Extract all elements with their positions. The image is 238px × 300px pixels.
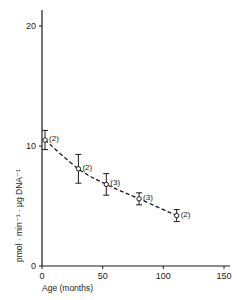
marker-open-circle: [137, 197, 141, 201]
y-tick-label: 10: [26, 141, 36, 151]
y-tick-label: 0: [31, 261, 36, 271]
sample-size-label: (2): [181, 210, 191, 219]
y-tick-label: 20: [26, 21, 36, 31]
x-tick-label: 50: [98, 271, 108, 281]
data-point: (3): [136, 193, 153, 205]
chart: 05010015001020 (2)(2)(3)(3)(2) Age (mont…: [0, 0, 238, 300]
x-tick-label: 150: [216, 271, 231, 281]
axes: [42, 10, 230, 266]
data-points: (2)(2)(3)(3)(2): [42, 130, 191, 221]
x-tick-label: 100: [156, 271, 171, 281]
sample-size-label: (2): [82, 163, 92, 172]
sample-size-label: (3): [110, 178, 120, 187]
sample-size-label: (2): [49, 134, 59, 143]
marker-open-circle: [174, 213, 178, 217]
x-axis-title: Age (months): [42, 283, 93, 293]
marker-open-circle: [104, 182, 108, 186]
data-point: (2): [75, 154, 92, 183]
data-point: (2): [42, 130, 59, 149]
x-tick-label: 0: [39, 271, 44, 281]
marker-open-circle: [76, 167, 80, 171]
sample-size-label: (3): [143, 193, 153, 202]
data-point: (2): [174, 210, 191, 222]
y-axis-title: pmol · min⁻¹ · µg DNA⁻¹: [14, 169, 24, 262]
data-point: (3): [103, 174, 120, 196]
marker-open-circle: [43, 138, 47, 142]
